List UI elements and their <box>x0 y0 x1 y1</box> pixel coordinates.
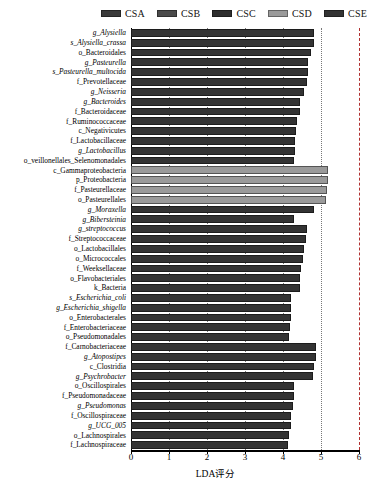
bar-c-gammaproteobacteria <box>131 166 328 174</box>
bar-row <box>131 264 359 274</box>
bar-g-pseudomonas <box>131 402 293 410</box>
category-label: g_Pseudomonas <box>0 401 129 411</box>
category-label: g_Atopostipes <box>0 352 129 362</box>
bar-row <box>131 97 359 107</box>
category-label: f_Oscillospiraceae <box>0 411 129 421</box>
category-label: o_Enterobacterales <box>0 313 129 323</box>
bar-o-flavobacteriales <box>131 274 300 282</box>
bar-row <box>131 411 359 421</box>
legend-swatch-icon <box>157 10 177 17</box>
legend-swatch-icon <box>212 10 232 17</box>
bar-row <box>131 430 359 440</box>
bar-f-prevotellaceae <box>131 78 307 86</box>
x-axis-title-text: LDA评分 <box>136 469 236 479</box>
legend-item-cse: CSE <box>324 8 367 19</box>
category-label: f_Pasteurellaceae <box>0 185 129 195</box>
x-tick-label-6: 6 <box>357 452 362 462</box>
bar-row <box>131 224 359 234</box>
category-label: f_Bacteroidaceae <box>0 107 129 117</box>
bar-f-oscillospiraceae <box>131 412 291 420</box>
lda-chart-figure: CSACSBCSCCSDCSE g_Alysiellas_Alysiella_c… <box>0 0 371 483</box>
bar-o-pasteurellales <box>131 196 326 204</box>
bar-row <box>131 421 359 431</box>
bar-row <box>131 156 359 166</box>
category-label: f_Enterobacteriaceae <box>0 322 129 332</box>
bar-row <box>131 244 359 254</box>
bar-g-ucg-005 <box>131 422 291 430</box>
bar-k-bacteria <box>131 284 300 292</box>
bar-c-clostridia <box>131 363 314 371</box>
bar-row <box>131 136 359 146</box>
category-label: g_Psychrobacter <box>0 371 129 381</box>
category-label: f_Weeksellaceae <box>0 264 129 274</box>
category-label: s_Escherichia_coli <box>0 293 129 303</box>
legend-label: CSD <box>292 8 312 19</box>
category-label: o_Flavobacteriales <box>0 273 129 283</box>
bar-g-escherichia-shigella <box>131 304 291 312</box>
bar-s-alysiella-crassa <box>131 39 314 47</box>
x-tick-label-5: 5 <box>319 452 324 462</box>
category-label: f_Pseudomonadaceae <box>0 391 129 401</box>
bar-row <box>131 273 359 283</box>
category-label: k_Bacteria <box>0 283 129 293</box>
bar-row <box>131 57 359 67</box>
bar-row <box>131 185 359 195</box>
bar-row <box>131 165 359 175</box>
category-label: f_Lachnospiraceae <box>0 440 129 450</box>
bar-o-oscillospirales <box>131 382 294 390</box>
bar-row <box>131 126 359 136</box>
bar-row <box>131 322 359 332</box>
bar-row <box>131 205 359 215</box>
category-label: c_Gammaproteobacteria <box>0 165 129 175</box>
x-tick-label-4: 4 <box>281 452 286 462</box>
bar-o-pseudomonadales <box>131 333 289 341</box>
bar-row <box>131 234 359 244</box>
bar-f-pasteurellaceae <box>131 186 327 194</box>
x-axis-tick-labels: 0123456 <box>0 452 371 466</box>
category-label: o_veillonellales_Selenomonadales <box>0 156 129 166</box>
bar-f-bacteroidaceae <box>131 108 300 116</box>
category-label: c_Negativicutes <box>0 126 129 136</box>
category-label: o_Pasteurellales <box>0 195 129 205</box>
bar-o-veillonellales-selenomonadales <box>131 157 294 165</box>
bar-f-ruminococcaceae <box>131 117 297 125</box>
bar-c-negativicutes <box>131 127 296 135</box>
bar-f-streptococcaceae <box>131 235 306 243</box>
bar-o-lachnospirales <box>131 431 289 439</box>
bar-row <box>131 67 359 77</box>
bar-f-lachnospiraceae <box>131 441 288 449</box>
category-label: g_Lactobacillus <box>0 146 129 156</box>
bar-row <box>131 371 359 381</box>
x-tick-label-3: 3 <box>243 452 248 462</box>
bar-f-enterobacteriaceae <box>131 323 290 331</box>
category-axis-labels: g_Alysiellas_Alysiella_crassao_Bacteroid… <box>0 28 129 450</box>
category-label: g_Pasteurella <box>0 57 129 67</box>
category-label: s_Alysiella_crassa <box>0 38 129 48</box>
bar-series <box>131 28 359 450</box>
legend-label: CSB <box>181 8 201 19</box>
x-tick-label-0: 0 <box>129 452 134 462</box>
bar-g-bibersteinia <box>131 215 294 223</box>
bar-o-enterobacterales <box>131 314 291 322</box>
legend-label: CSC <box>236 8 256 19</box>
category-label: o_Bacteroidales <box>0 48 129 58</box>
category-label: f_Lactobacillaceae <box>0 136 129 146</box>
category-label: o_Micrococcales <box>0 254 129 264</box>
bar-o-micrococcales <box>131 255 303 263</box>
legend-label: CSA <box>125 8 145 19</box>
bar-s-escherichia-coli <box>131 294 291 302</box>
category-label: o_Lachnospirales <box>0 430 129 440</box>
bar-row <box>131 87 359 97</box>
bar-row <box>131 362 359 372</box>
category-label: o_Pseudomonadales <box>0 332 129 342</box>
bar-row <box>131 116 359 126</box>
bar-row <box>131 391 359 401</box>
category-label: s_Pasteurella_multocida <box>0 67 129 77</box>
bar-row <box>131 303 359 313</box>
legend-swatch-icon <box>324 10 344 17</box>
chart-legend: CSACSBCSCCSDCSE <box>0 6 371 20</box>
gridline-6 <box>359 28 360 450</box>
bar-g-pasteurella <box>131 58 308 66</box>
bar-f-pseudomonadaceae <box>131 392 294 400</box>
bar-g-bacteroides <box>131 98 300 106</box>
